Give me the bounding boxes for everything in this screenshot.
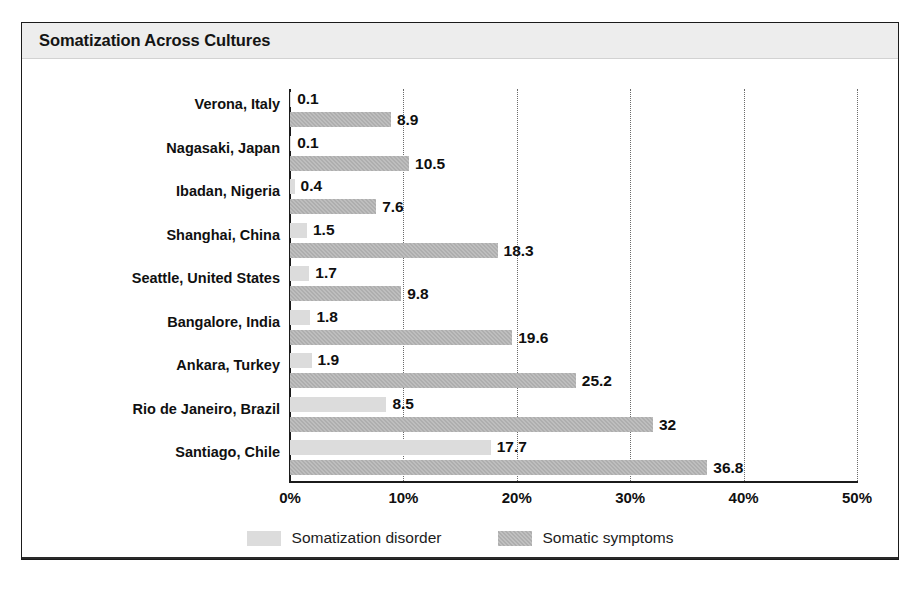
bar-row: Nagasaki, Japan0.110.5 <box>290 133 857 177</box>
bar-value-label: 1.7 <box>315 265 337 280</box>
legend-label: Somatization disorder <box>292 529 442 547</box>
bar-value-label: 8.9 <box>397 112 419 127</box>
category-label: Nagasaki, Japan <box>166 140 280 156</box>
category-label: Bangalore, India <box>167 314 280 330</box>
footer-divider <box>22 557 898 559</box>
category-label: Shanghai, China <box>166 227 280 243</box>
x-tick-label: 0% <box>279 489 301 506</box>
bar-row: Santiago, Chile17.736.8 <box>290 437 857 481</box>
bar-value-label: 8.5 <box>392 396 414 411</box>
figure-frame: Somatization Across Cultures Verona, Ita… <box>21 22 899 560</box>
x-tick-label: 40% <box>729 489 759 506</box>
bar-somatization-disorder <box>290 136 291 151</box>
category-label: Rio de Janeiro, Brazil <box>133 401 280 417</box>
bar-somatic-symptoms <box>290 460 707 475</box>
bar-somatization-disorder <box>290 223 307 238</box>
bar-value-label: 0.1 <box>297 91 319 106</box>
bar-somatization-disorder <box>290 397 386 412</box>
bar-value-label: 32 <box>659 417 676 432</box>
bar-value-label: 10.5 <box>415 156 445 171</box>
legend-item[interactable]: Somatic symptoms <box>498 529 674 547</box>
bar-value-label: 1.5 <box>313 222 335 237</box>
bar-somatic-symptoms <box>290 330 512 345</box>
bar-value-label: 1.8 <box>316 309 338 324</box>
x-tick-label: 20% <box>502 489 532 506</box>
legend-swatch-icon <box>498 531 532 546</box>
bar-somatization-disorder <box>290 266 309 281</box>
bar-somatic-symptoms <box>290 112 391 127</box>
bar-value-label: 9.8 <box>407 286 429 301</box>
bar-row: Bangalore, India1.819.6 <box>290 307 857 351</box>
bar-row: Seattle, United States1.79.8 <box>290 263 857 307</box>
bar-somatic-symptoms <box>290 243 498 258</box>
bar-row: Shanghai, China1.518.3 <box>290 220 857 264</box>
bar-value-label: 0.1 <box>297 135 319 150</box>
legend-item[interactable]: Somatization disorder <box>247 529 442 547</box>
bar-somatization-disorder <box>290 179 295 194</box>
bar-value-label: 25.2 <box>582 373 612 388</box>
category-label: Seattle, United States <box>132 270 280 286</box>
category-label: Ankara, Turkey <box>176 357 280 373</box>
bar-value-label: 17.7 <box>497 439 527 454</box>
bar-somatization-disorder <box>290 310 310 325</box>
x-axis-line <box>289 481 858 483</box>
bar-value-label: 36.8 <box>713 460 743 475</box>
legend-label: Somatic symptoms <box>543 529 674 547</box>
page-title: Somatization Across Cultures <box>39 31 270 50</box>
bar-value-label: 19.6 <box>518 330 548 345</box>
plot-area: Verona, Italy0.18.9Nagasaki, Japan0.110.… <box>290 89 857 481</box>
bar-value-label: 0.4 <box>301 178 323 193</box>
category-label: Santiago, Chile <box>175 444 280 460</box>
bar-somatic-symptoms <box>290 286 401 301</box>
chart-legend: Somatization disorderSomatic symptoms <box>22 529 898 547</box>
legend-swatch-icon <box>247 531 281 546</box>
bar-somatization-disorder <box>290 92 291 107</box>
category-label: Verona, Italy <box>195 96 280 112</box>
bar-row: Verona, Italy0.18.9 <box>290 89 857 133</box>
category-label: Ibadan, Nigeria <box>176 183 280 199</box>
bar-somatization-disorder <box>290 353 312 368</box>
bar-value-label: 18.3 <box>504 243 534 258</box>
bar-row: Ibadan, Nigeria0.47.6 <box>290 176 857 220</box>
bar-somatic-symptoms <box>290 156 409 171</box>
bar-value-label: 1.9 <box>318 352 340 367</box>
bar-value-label: 7.6 <box>382 199 404 214</box>
bar-somatic-symptoms <box>290 199 376 214</box>
x-tick-label: 10% <box>388 489 418 506</box>
bar-somatic-symptoms <box>290 373 576 388</box>
bar-somatization-disorder <box>290 440 491 455</box>
x-tick-label: 30% <box>615 489 645 506</box>
bar-row: Rio de Janeiro, Brazil8.532 <box>290 394 857 438</box>
bar-somatic-symptoms <box>290 417 653 432</box>
gridline-50% <box>857 89 859 481</box>
bar-row: Ankara, Turkey1.925.2 <box>290 350 857 394</box>
x-tick-label: 50% <box>842 489 872 506</box>
